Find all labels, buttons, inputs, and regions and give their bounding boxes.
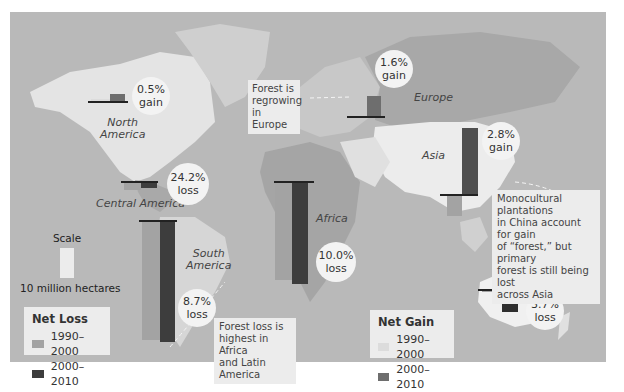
bubble-pct: 10.0% bbox=[319, 249, 354, 262]
swatch-mid-gray bbox=[378, 373, 389, 381]
note-line: forest is still being lost bbox=[497, 265, 595, 289]
note-line: highest in Africa bbox=[219, 333, 291, 357]
swatch-light-gray bbox=[32, 340, 44, 348]
bubble-asia: 2.8% gain bbox=[482, 122, 520, 160]
scale-swatch bbox=[60, 248, 74, 278]
legend-item: 2000–2010 bbox=[378, 362, 446, 392]
bubble-word: loss bbox=[325, 262, 346, 275]
swatch-dark-gray bbox=[32, 370, 44, 378]
scale-title: Scale bbox=[20, 232, 114, 244]
bar-na-gain-2000 bbox=[110, 94, 125, 101]
bubble-word: gain bbox=[139, 96, 163, 109]
bar-ca-loss-1990 bbox=[124, 182, 141, 190]
legend-label: 1990–2000 bbox=[396, 332, 446, 362]
legend-label: 2000–2010 bbox=[51, 359, 102, 389]
baseline-africa bbox=[274, 181, 314, 183]
label-africa: Africa bbox=[316, 213, 348, 225]
bubble-south-america: 8.7% loss bbox=[178, 289, 216, 327]
bar-ca-loss-2000 bbox=[141, 182, 157, 188]
legend-title: Net Gain bbox=[378, 315, 446, 329]
label-north-america: North America bbox=[100, 117, 145, 141]
bar-sa-loss-2000 bbox=[160, 221, 175, 342]
note-latin-america: Forest loss is highest in Africa and Lat… bbox=[214, 318, 296, 384]
legend-net-loss: Net Loss 1990–2000 2000–2010 bbox=[24, 307, 110, 355]
scale-label: 10 million hectares bbox=[20, 282, 114, 294]
label-central-america: Central America bbox=[96, 198, 185, 210]
label-asia: Asia bbox=[422, 150, 445, 162]
bubble-word: loss bbox=[186, 308, 207, 321]
note-china: Monocultural plantations in China accoun… bbox=[492, 190, 600, 304]
label-text: America bbox=[100, 129, 145, 141]
legend-label: 2000–2010 bbox=[396, 362, 446, 392]
note-line: Forest loss is bbox=[219, 321, 291, 333]
note-line: in Europe bbox=[252, 107, 296, 131]
note-line: Forest is bbox=[252, 83, 296, 95]
label-europe: Europe bbox=[414, 92, 453, 104]
note-line: of “forest,” but primary bbox=[497, 241, 595, 265]
baseline-north-america bbox=[88, 101, 128, 103]
swatch-pale-gray bbox=[378, 343, 389, 351]
bubble-pct: 2.8% bbox=[487, 128, 515, 141]
legend-item: 2000–2010 bbox=[32, 359, 102, 389]
bar-asia-loss-1990 bbox=[447, 195, 462, 216]
bar-sa-loss-1990 bbox=[142, 221, 160, 340]
bar-asia-gain-2000 bbox=[462, 128, 478, 194]
bubble-word: loss bbox=[177, 184, 198, 197]
scale: Scale 10 million hectares bbox=[20, 232, 114, 294]
legend-item: 1990–2000 bbox=[32, 329, 102, 359]
bubble-pct: 24.2% bbox=[171, 171, 206, 184]
bubble-central-america: 24.2% loss bbox=[167, 163, 209, 205]
bubble-north-america: 0.5% gain bbox=[132, 77, 170, 115]
bubble-word: gain bbox=[382, 69, 406, 82]
bubble-pct: 1.6% bbox=[380, 56, 408, 69]
bubble-pct: 8.7% bbox=[183, 295, 211, 308]
label-text: America bbox=[186, 260, 231, 272]
legend-net-gain: Net Gain 1990–2000 2000–2010 bbox=[370, 310, 454, 358]
bar-africa-loss-1990 bbox=[275, 182, 292, 280]
bar-africa-loss-2000 bbox=[292, 182, 308, 284]
legend-item: 1990–2000 bbox=[378, 332, 446, 362]
bubble-europe: 1.6% gain bbox=[375, 50, 413, 88]
legend-title: Net Loss bbox=[32, 312, 102, 326]
legend-label: 1990–2000 bbox=[51, 329, 102, 359]
bubble-word: loss bbox=[534, 311, 555, 324]
bubble-word: gain bbox=[489, 141, 513, 154]
bubble-pct: 0.5% bbox=[137, 83, 165, 96]
baseline-europe bbox=[347, 116, 385, 118]
bar-eu-gain-2000 bbox=[367, 96, 381, 116]
note-line: across Asia bbox=[497, 289, 595, 301]
note-line: in China account for gain bbox=[497, 217, 595, 241]
baseline-central-america bbox=[121, 181, 158, 183]
bubble-africa: 10.0% loss bbox=[316, 242, 356, 282]
label-south-america: South America bbox=[186, 248, 231, 272]
note-line: and Latin America bbox=[219, 357, 291, 381]
baseline-asia bbox=[440, 194, 478, 196]
note-line: regrowing bbox=[252, 95, 296, 107]
baseline-south-america bbox=[139, 220, 177, 222]
note-europe: Forest is regrowing in Europe bbox=[248, 80, 300, 134]
note-line: Monocultural plantations bbox=[497, 193, 595, 217]
